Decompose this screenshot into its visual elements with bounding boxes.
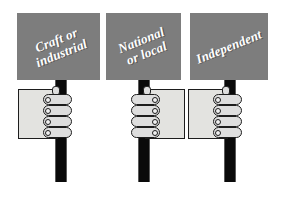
knuckle-3-4 [215, 130, 221, 136]
knuckle-1-3 [45, 119, 51, 125]
knuckle-2-1 [152, 97, 158, 103]
placard-2[interactable]: National or local [106, 13, 181, 80]
knuckle-1-4 [45, 130, 51, 136]
hand-1 [18, 86, 74, 140]
placard-2-label: National or local [116, 24, 172, 68]
knuckle-3-1 [215, 97, 221, 103]
knuckle-2-4 [152, 130, 158, 136]
knuckle-3-3 [215, 119, 221, 125]
knuckle-2-2 [152, 108, 158, 114]
knuckle-3-2 [215, 108, 221, 114]
hand-2 [129, 86, 185, 140]
placards-illustration: Craft or industrial National or local [0, 0, 285, 199]
placard-1[interactable]: Craft or industrial [17, 13, 100, 80]
placard-3[interactable]: Independent [190, 13, 268, 80]
knuckle-1-2 [45, 108, 51, 114]
placard-3-label: Independent [194, 27, 264, 66]
hand-3 [188, 86, 244, 140]
knuckle-2-3 [152, 119, 158, 125]
knuckle-1-1 [45, 97, 51, 103]
placard-1-label: Craft or industrial [28, 23, 89, 69]
